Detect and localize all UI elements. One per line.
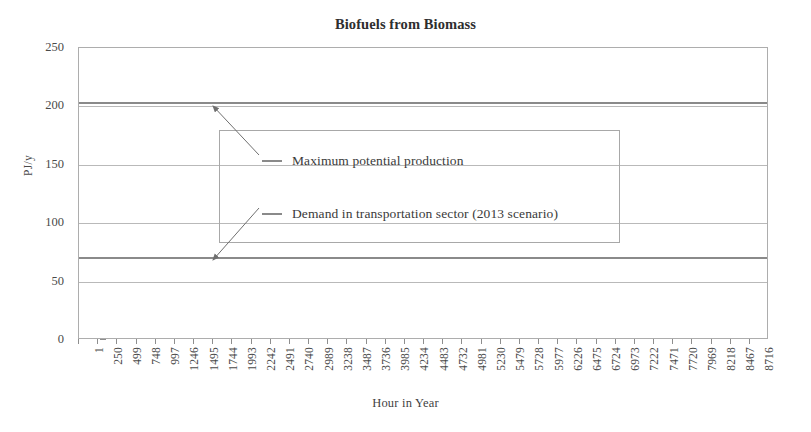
x-tick-label: 7222 <box>648 347 660 371</box>
x-tick-label: 7720 <box>687 347 699 371</box>
x-tick-label: 3238 <box>342 347 354 371</box>
x-tick-mark <box>481 339 482 344</box>
x-tick-mark <box>404 339 405 344</box>
x-tick-label: 3985 <box>399 347 411 371</box>
x-tick-label: 3487 <box>361 347 373 371</box>
x-tick-mark <box>346 339 347 344</box>
legend-item-label: Demand in transportation sector (2013 sc… <box>292 206 558 222</box>
x-tick-mark <box>136 339 137 344</box>
legend-line-swatch-icon <box>262 213 282 215</box>
x-tick-label: 748 <box>150 347 162 365</box>
x-tick-mark <box>557 339 558 344</box>
y-tick-label: 0 <box>58 332 64 347</box>
x-tick-label: 997 <box>169 347 181 365</box>
x-tick-label: 8716 <box>763 347 775 371</box>
y-tick-label: 250 <box>45 40 64 55</box>
x-tick-mark <box>385 339 386 344</box>
x-tick-label: 8218 <box>725 347 737 371</box>
chart-figure: Biofuels from Biomass PJ/y 0501001502002… <box>0 0 811 432</box>
x-tick-mark <box>576 339 577 344</box>
x-tick-label: 6724 <box>610 347 622 371</box>
x-tick-mark <box>538 339 539 344</box>
x-tick-mark <box>308 339 309 344</box>
x-tick-mark <box>461 339 462 344</box>
x-tick-label: 2491 <box>284 347 296 371</box>
x-tick-label: 250 <box>112 347 124 365</box>
x-tick-mark <box>212 339 213 344</box>
x-tick-label: 5728 <box>533 347 545 371</box>
x-axis-ticks <box>78 339 768 345</box>
x-tick-label: 6973 <box>629 347 641 371</box>
x-tick-label: 1 <box>93 347 105 353</box>
x-tick-mark <box>327 339 328 344</box>
legend-line-swatch-icon <box>262 160 282 162</box>
x-tick-mark <box>193 339 194 344</box>
x-tick-mark <box>615 339 616 344</box>
x-tick-mark <box>653 339 654 344</box>
y-tick-label: 150 <box>45 156 64 171</box>
x-tick-mark <box>231 339 232 344</box>
y-tick-label: 200 <box>45 98 64 113</box>
x-tick-mark <box>596 339 597 344</box>
legend-item-demand: Demand in transportation sector (2013 sc… <box>262 206 558 222</box>
y-axis: 050100150200250 <box>28 47 72 339</box>
x-tick-label: 2242 <box>265 347 277 371</box>
x-tick-mark <box>634 339 635 344</box>
x-tick-label: 7969 <box>706 347 718 371</box>
x-tick-label: 5977 <box>553 347 565 371</box>
x-tick-mark <box>749 339 750 344</box>
legend-item-max-production: Maximum potential production <box>262 153 464 169</box>
x-tick-label: 2740 <box>303 347 315 371</box>
x-tick-label: 1246 <box>188 347 200 371</box>
x-tick-label: 2989 <box>323 347 335 371</box>
series-line-1 <box>79 257 767 259</box>
x-tick-label: 6226 <box>572 347 584 371</box>
x-tick-label: 5479 <box>514 347 526 371</box>
x-tick-mark <box>519 339 520 344</box>
page-title: Biofuels from Biomass <box>0 16 811 33</box>
x-axis-labels: 1250499748997124614951744199322422491274… <box>78 347 768 393</box>
x-tick-label: 499 <box>131 347 143 365</box>
x-tick-mark <box>78 339 79 344</box>
x-tick-mark <box>691 339 692 344</box>
x-tick-mark <box>97 339 98 344</box>
x-tick-label: 4483 <box>438 347 450 371</box>
x-tick-label: 8467 <box>744 347 756 371</box>
x-tick-mark <box>270 339 271 344</box>
x-tick-label: 4732 <box>457 347 469 371</box>
x-tick-label: 5230 <box>495 347 507 371</box>
x-tick-mark <box>423 339 424 344</box>
x-tick-label: 7471 <box>668 347 680 371</box>
x-tick-mark <box>155 339 156 344</box>
y-tick-label: 50 <box>52 273 65 288</box>
x-tick-label: 4981 <box>476 347 488 371</box>
x-axis-title: Hour in Year <box>0 396 811 411</box>
x-tick-mark <box>289 339 290 344</box>
x-tick-mark <box>500 339 501 344</box>
legend: Maximum potential production Demand in t… <box>219 130 620 243</box>
x-tick-label: 1744 <box>227 347 239 371</box>
x-tick-label: 3736 <box>380 347 392 371</box>
x-tick-mark <box>711 339 712 344</box>
x-tick-mark <box>366 339 367 344</box>
x-tick-label: 4234 <box>418 347 430 371</box>
series-line-0 <box>79 102 767 104</box>
x-tick-mark <box>251 339 252 344</box>
x-tick-mark <box>116 339 117 344</box>
x-tick-mark <box>730 339 731 344</box>
gridline <box>79 106 767 107</box>
x-tick-label: 1993 <box>246 347 258 371</box>
x-tick-mark <box>442 339 443 344</box>
x-tick-mark <box>672 339 673 344</box>
x-tick-label: 1495 <box>208 347 220 371</box>
x-tick-label: 6475 <box>591 347 603 371</box>
gridline <box>79 282 767 283</box>
y-tick-label: 100 <box>45 215 64 230</box>
legend-item-label: Maximum potential production <box>292 153 464 169</box>
x-tick-mark <box>174 339 175 344</box>
